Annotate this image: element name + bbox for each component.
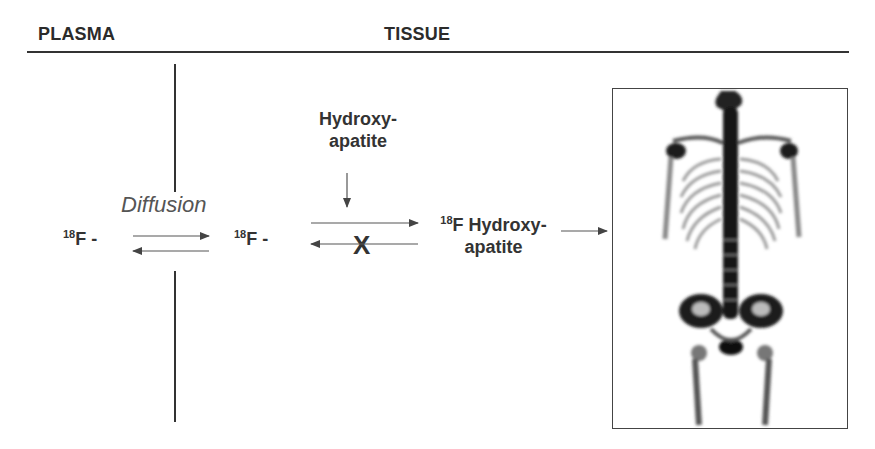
bone-scan-image [612,88,848,429]
skeleton-icon [613,89,847,428]
